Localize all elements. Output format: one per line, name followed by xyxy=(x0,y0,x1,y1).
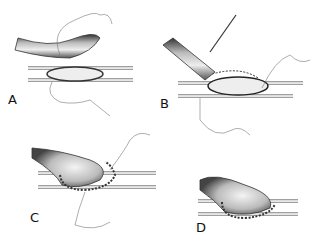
panel-label-d: D xyxy=(196,220,206,235)
panel-d xyxy=(198,120,298,218)
anastomosis-illustration xyxy=(0,0,327,237)
panel-c xyxy=(32,133,156,228)
panel-b xyxy=(163,15,310,120)
panel-label-a: A xyxy=(8,92,17,107)
panel-label-b: B xyxy=(160,96,169,111)
panel-a xyxy=(15,13,133,116)
panel-label-c: C xyxy=(30,210,39,225)
